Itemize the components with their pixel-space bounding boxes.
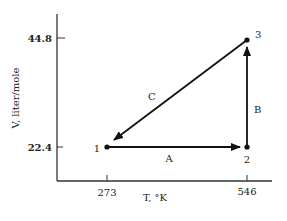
diagram-canvas: 44.8 22.4 273 546 T, °K V, liter/mole 1 … xyxy=(0,0,287,221)
point-2-label: 2 xyxy=(244,154,250,165)
path-b-label: B xyxy=(254,104,261,115)
y-tick-label-22-4: 22.4 xyxy=(28,142,52,153)
y-tick-label-44-8: 44.8 xyxy=(28,33,52,44)
x-axis-label: T, °K xyxy=(143,192,168,203)
path-a-label: A xyxy=(164,153,173,164)
y-axis-label: V, liter/mole xyxy=(10,67,21,129)
path-c-arrow xyxy=(114,40,247,140)
path-c-label: C xyxy=(148,91,156,102)
point-2-dot xyxy=(244,144,249,149)
point-3-label: 3 xyxy=(255,29,261,40)
x-tick-label-546: 546 xyxy=(237,186,256,197)
x-tick-label-273: 273 xyxy=(97,187,116,198)
point-1-dot xyxy=(104,144,109,149)
point-1-label: 1 xyxy=(94,143,100,154)
pv-cycle-diagram: 44.8 22.4 273 546 T, °K V, liter/mole 1 … xyxy=(0,0,287,221)
point-3-dot xyxy=(244,37,249,42)
